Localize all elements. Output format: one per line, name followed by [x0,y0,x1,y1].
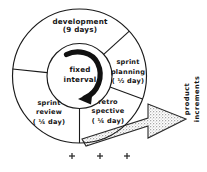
segment-name-sprint-planning-line1: sprint [104,58,152,68]
arrow-label-line2: increments [193,67,203,131]
hub-label-line2: interval [52,75,108,85]
segment-duration-development: (9 days) [38,26,122,34]
segment-name-sprint-planning-line2: planning [104,68,152,78]
segment-label-development: development (9 days) [38,18,122,34]
segment-name-sprint-review-line2: review [24,108,74,117]
segment-duration-sprint-planning: ( ½ day) [104,77,152,87]
segment-label-sprint-planning: sprint planning ( ½ day) [104,58,152,87]
plus-mark-icon [69,153,75,159]
arrow-label-line1: product [183,67,193,131]
divider-review-development [13,69,48,73]
segment-name-retrospective-line1: retro [84,98,132,107]
segment-label-sprint-review: sprint review ( ¼ day) [24,99,74,127]
footer-plus-marks [69,153,130,159]
sprint-cycle-diagram: development (9 days) fixed interval spri… [0,0,207,172]
segment-name-sprint-review-line1: sprint [24,99,74,108]
plus-mark-icon [124,153,130,159]
hub-label-line1: fixed [52,65,108,75]
arrow-label-product-increments: product increments [183,67,207,131]
segment-name-retrospective-line2: spective [84,107,132,116]
plus-mark-icon [97,153,103,159]
segment-label-retrospective: retro spective ( ¼ day) [84,98,132,126]
hub-label-fixed-interval: fixed interval [52,65,108,86]
segment-duration-sprint-review: ( ¼ day) [24,118,74,127]
divider-development-planning [104,31,130,54]
segment-duration-retrospective: ( ¼ day) [84,117,132,126]
